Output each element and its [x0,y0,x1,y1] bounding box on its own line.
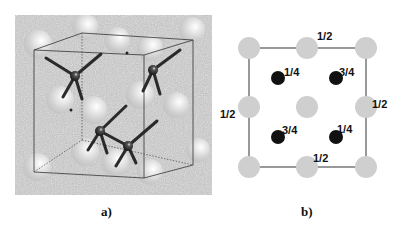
height-label-right-edge: 1/2 [372,98,387,110]
height-label-atom-2: 3/4 [339,66,355,78]
height-label-bottom-edge: 1/2 [313,152,328,164]
panel-b-projection: 1/2 1/2 1/2 1/2 1/4 3/4 3/4 1/4 b) [220,30,387,219]
crystal-structure-figure: a) 1/2 1/2 1/2 1/2 1/4 3/4 [0,0,400,229]
panel-a-3d-unit-cell: a) [15,14,212,219]
height-label-atom-4: 1/4 [337,123,353,135]
height-label-atom-3: 3/4 [282,124,298,136]
panel-b-label: b) [301,204,313,219]
height-label-left-edge: 1/2 [220,108,235,120]
height-label-top-edge: 1/2 [317,30,332,42]
panel-a-label: a) [101,204,112,219]
height-label-atom-1: 1/4 [284,66,300,78]
large-spheres-projection [238,37,377,178]
